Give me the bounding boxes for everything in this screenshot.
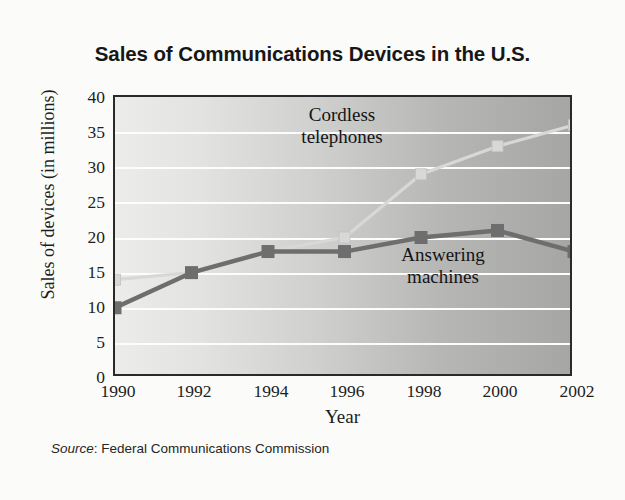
x-tick-label: 1994 xyxy=(236,381,306,402)
annotation-answering-machines: Answering machines xyxy=(368,244,518,288)
x-tick-label: 1996 xyxy=(312,381,382,402)
y-tick-label: 35 xyxy=(59,122,105,143)
data-point-marker xyxy=(416,169,427,180)
x-tick-label: 2000 xyxy=(465,381,535,402)
x-tick-label: 2002 xyxy=(542,381,612,402)
data-point-marker xyxy=(415,231,428,244)
x-axis-label: Year xyxy=(113,406,572,428)
chart-figure: Sales of Communications Devices in the U… xyxy=(0,0,625,500)
annotation-cordless-telephones: Cordless telephones xyxy=(272,104,412,148)
y-tick-label: 40 xyxy=(59,87,105,108)
data-point-marker xyxy=(492,141,503,152)
data-point-marker xyxy=(185,266,198,279)
data-point-marker xyxy=(262,245,275,258)
y-tick-label: 10 xyxy=(59,297,105,318)
x-tick-label: 1992 xyxy=(159,381,229,402)
y-tick-label: 30 xyxy=(59,157,105,178)
x-tick-label: 1998 xyxy=(389,381,459,402)
data-point-marker xyxy=(569,120,573,131)
data-point-marker xyxy=(338,245,351,258)
y-axis-label: Sales of devices (in millions) xyxy=(38,65,59,325)
chart-title: Sales of Communications Devices in the U… xyxy=(0,42,625,66)
data-point-marker xyxy=(568,245,573,258)
source-label: Source xyxy=(51,441,94,456)
y-tick-label: 25 xyxy=(59,192,105,213)
data-point-marker xyxy=(491,224,504,237)
y-tick-label: 15 xyxy=(59,262,105,283)
y-tick-label: 5 xyxy=(59,332,105,353)
x-tick-label: 1990 xyxy=(83,381,153,402)
data-point-marker xyxy=(115,301,122,314)
source-text: : Federal Communications Commission xyxy=(94,441,330,456)
data-point-marker xyxy=(115,274,121,285)
data-point-marker xyxy=(339,232,350,243)
y-tick-label: 20 xyxy=(59,227,105,248)
source-note: Source: Federal Communications Commissio… xyxy=(51,441,329,456)
